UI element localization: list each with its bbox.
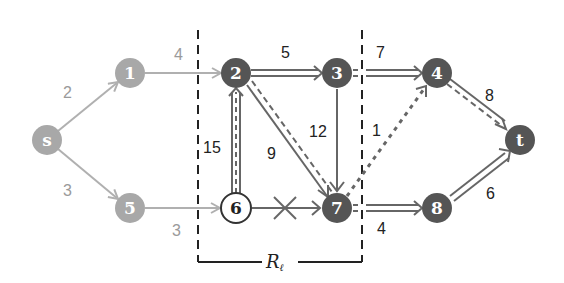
edge-label-1-2: 4	[174, 46, 183, 63]
edge-label-3-7: 12	[309, 123, 327, 140]
edge-label-3-4: 7	[376, 44, 385, 61]
edge-3-4	[353, 66, 422, 80]
edge-label-s-5: 3	[63, 182, 72, 199]
node-6: 6	[221, 193, 251, 223]
edge-4-t	[447, 79, 506, 129]
edge-7-4	[347, 86, 426, 196]
edge-3-7	[330, 89, 344, 191]
svg-text:4: 4	[431, 63, 443, 83]
svg-text:6: 6	[230, 198, 242, 218]
node-s: s	[32, 125, 62, 155]
svg-text:2: 2	[230, 63, 242, 83]
edge-6-7-removed	[252, 197, 320, 219]
network-flow-diagram: Rℓ	[0, 0, 564, 283]
node-5: 5	[115, 193, 145, 223]
edge-label-4-t: 8	[485, 87, 494, 104]
svg-text:7: 7	[331, 198, 343, 218]
edge-label-s-1: 2	[63, 84, 72, 101]
node-7: 7	[322, 193, 352, 223]
edge-2-3	[251, 66, 322, 80]
node-3: 3	[322, 58, 352, 88]
edge-label-2-3: 5	[281, 44, 290, 61]
region-label: Rℓ	[265, 251, 284, 273]
edge-label-5-6: 3	[172, 222, 181, 239]
edge-7-8	[353, 201, 422, 215]
edge-label-6-2: 15	[203, 139, 221, 156]
svg-text:3: 3	[331, 63, 343, 83]
svg-text:5: 5	[124, 198, 136, 218]
edge-8-t	[450, 149, 510, 201]
svg-text:1: 1	[124, 63, 136, 83]
svg-text:8: 8	[431, 198, 443, 218]
node-t: t	[505, 125, 535, 155]
node-2: 2	[221, 58, 251, 88]
edge-label-7-4: 1	[372, 122, 381, 139]
svg-text:s: s	[42, 130, 52, 150]
svg-text:t: t	[516, 130, 524, 150]
node-4: 4	[422, 58, 452, 88]
edge-label-8-t: 6	[486, 185, 495, 202]
edge-label-7-8: 4	[377, 220, 386, 237]
edge-label-2-7: 9	[267, 145, 276, 162]
node-8: 8	[422, 193, 452, 223]
edge-6-2	[229, 88, 243, 193]
node-1: 1	[115, 58, 145, 88]
